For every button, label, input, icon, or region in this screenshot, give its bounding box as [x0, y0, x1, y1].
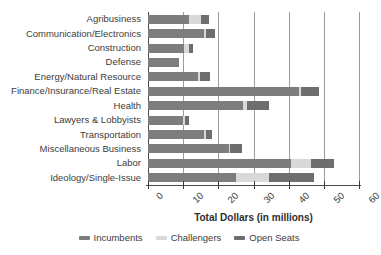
bar-segment-open-seats [269, 173, 314, 182]
legend-label: Challengers [171, 232, 222, 243]
bar-segment-open-seats [247, 101, 269, 110]
bar-segment-open-seats [311, 159, 334, 168]
x-tick-10 [183, 181, 184, 189]
bar-segment-incumbents [148, 87, 299, 96]
x-tick-30 [254, 181, 255, 189]
category-label-1: Communication/Electronics [26, 29, 141, 39]
x-tick-60 [359, 181, 360, 189]
bar-segment-open-seats [301, 87, 319, 96]
bars-layer [148, 12, 359, 185]
bar-segment-open-seats [201, 15, 209, 24]
bar-segment-open-seats [230, 144, 242, 153]
legend-label: Incumbents [94, 232, 143, 243]
legend-swatch-icon [234, 236, 245, 240]
bar-segment-incumbents [148, 29, 204, 38]
x-tick-label-30: 30 [261, 190, 276, 205]
bar-segment-open-seats [206, 29, 215, 38]
bar-row [148, 29, 359, 38]
chart-legend: IncumbentsChallengersOpen Seats [0, 232, 378, 243]
legend-swatch-icon [156, 236, 167, 240]
bar-row [148, 130, 359, 139]
x-tick-label-60: 60 [366, 190, 381, 205]
bar-segment-incumbents [148, 101, 243, 110]
legend-item-open-seats[interactable]: Open Seats [234, 232, 299, 243]
bar-segment-open-seats [206, 130, 213, 139]
legend-item-incumbents[interactable]: Incumbents [79, 232, 143, 243]
x-tick-label-40: 40 [296, 190, 311, 205]
category-label-0: Agribusiness [87, 14, 141, 24]
bar-row [148, 72, 359, 81]
bar-row [148, 101, 359, 110]
bar-segment-incumbents [148, 144, 229, 153]
bar-segment-incumbents [148, 130, 204, 139]
bar-segment-incumbents [148, 72, 198, 81]
category-label-7: Lawyers & Lobbyists [54, 115, 141, 125]
bar-row [148, 58, 359, 67]
bar-segment-incumbents [148, 173, 236, 182]
category-label-11: Ideology/Single-Issue [50, 173, 141, 183]
plot-area [148, 12, 359, 185]
category-label-9: Miscellaneous Business [40, 144, 141, 154]
x-tick-label-0: 0 [154, 190, 166, 202]
gridline-60 [359, 12, 360, 185]
legend-label: Open Seats [249, 232, 299, 243]
bar-segment-challengers [291, 159, 311, 168]
legend-swatch-icon [79, 236, 90, 240]
x-tick-50 [324, 181, 325, 189]
legend-item-challengers[interactable]: Challengers [156, 232, 222, 243]
category-label-4: Energy/Natural Resource [34, 72, 141, 82]
category-label-6: Health [114, 101, 141, 111]
bar-row [148, 44, 359, 53]
bar-segment-incumbents [148, 58, 179, 67]
x-tick-40 [289, 181, 290, 189]
category-label-10: Labor [117, 158, 141, 168]
bar-row [148, 159, 359, 168]
x-tick-label-20: 20 [225, 190, 240, 205]
category-axis-labels: AgribusinessCommunication/ElectronicsCon… [0, 12, 145, 185]
bar-segment-incumbents [148, 159, 291, 168]
bar-row [148, 87, 359, 96]
bar-segment-incumbents [148, 15, 189, 24]
bar-segment-open-seats [185, 116, 189, 125]
bar-segment-open-seats [189, 44, 193, 53]
x-tick-label-50: 50 [331, 190, 346, 205]
bar-row [148, 144, 359, 153]
bar-row [148, 116, 359, 125]
bar-segment-incumbents [148, 44, 184, 53]
bar-segment-challengers [189, 15, 201, 24]
bar-segment-open-seats [200, 72, 210, 81]
x-tick-20 [218, 181, 219, 189]
category-label-8: Transportation [80, 130, 141, 140]
category-label-2: Construction [88, 43, 141, 53]
x-tick-0 [148, 181, 149, 189]
category-label-5: Finance/Insurance/Real Estate [11, 86, 141, 96]
x-axis-title: Total Dollars (in millions) [148, 212, 359, 223]
bar-segment-incumbents [148, 116, 183, 125]
bar-row [148, 15, 359, 24]
x-tick-label-10: 10 [190, 190, 205, 205]
category-label-3: Defense [106, 57, 141, 67]
